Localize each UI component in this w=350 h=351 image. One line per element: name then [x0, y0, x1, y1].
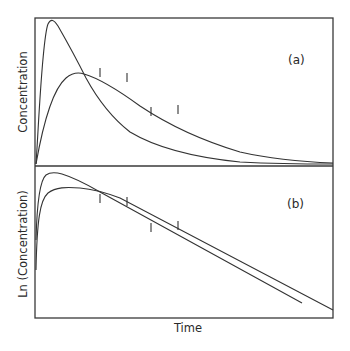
pharmacokinetic-figure: (a) Concentration (b) Ln (Concentration)… — [0, 0, 350, 351]
panel-a-label: (a) — [288, 53, 305, 67]
panel-b-fast-curve — [36, 173, 302, 303]
panel-a-fast-curve — [36, 20, 333, 164]
panel-a: (a) Concentration — [16, 20, 333, 164]
panel-b-label: (b) — [287, 197, 304, 211]
panel-a-slow-curve — [36, 73, 333, 164]
panel-a-ylabel: Concentration — [16, 51, 30, 132]
x-axis-label: Time — [173, 321, 202, 335]
panel-b: (b) Ln (Concentration) — [16, 173, 333, 310]
panel-b-ylabel: Ln (Concentration) — [16, 190, 30, 298]
